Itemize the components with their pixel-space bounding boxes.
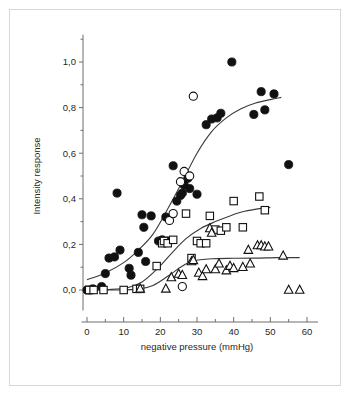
- x-tick-label: 50: [265, 326, 276, 337]
- series-open-squares: [86, 193, 269, 294]
- x-tick-label: 20: [155, 326, 166, 337]
- data-point-filled-circle: [257, 88, 265, 96]
- data-point-open-triangle: [215, 259, 224, 267]
- data-point-open-circle: [178, 282, 186, 290]
- x-tick-label: 30: [192, 326, 203, 337]
- data-point-open-square: [120, 286, 127, 293]
- data-point-open-circle: [186, 172, 194, 180]
- data-point-filled-circle: [250, 110, 258, 118]
- data-point-filled-circle: [127, 271, 135, 279]
- data-point-open-square: [223, 224, 230, 231]
- data-point-open-square: [261, 207, 268, 214]
- data-point-filled-circle: [142, 257, 150, 265]
- y-axis-title: Intensity response: [31, 137, 42, 214]
- y-tick-label: 1,0: [63, 56, 76, 67]
- x-tick-label: 40: [228, 326, 239, 337]
- data-point-open-triangle: [295, 285, 304, 293]
- scatter-plot: 0,00,20,40,60,81,00102030405060negative …: [0, 0, 351, 395]
- data-point-filled-circle: [147, 212, 155, 220]
- data-point-filled-circle: [261, 106, 269, 114]
- data-point-filled-circle: [285, 161, 293, 169]
- y-tick-label: 0,0: [63, 284, 76, 295]
- data-point-open-square: [182, 210, 189, 217]
- data-point-open-circle: [169, 210, 177, 218]
- data-point-open-triangle: [202, 265, 211, 273]
- data-point-open-square: [256, 193, 263, 200]
- data-point-filled-circle: [270, 90, 278, 98]
- data-point-open-square: [206, 212, 213, 219]
- y-tick-label: 0,8: [63, 102, 76, 113]
- data-point-open-triangle: [246, 259, 255, 267]
- data-point-filled-circle: [228, 58, 236, 66]
- data-point-filled-circle: [110, 253, 118, 261]
- y-tick-label: 0,6: [63, 148, 76, 159]
- data-point-filled-circle: [101, 269, 109, 277]
- x-tick-label: 60: [302, 326, 313, 337]
- data-point-open-circle: [176, 178, 184, 186]
- data-point-open-triangle: [162, 284, 171, 292]
- data-point-open-square: [153, 262, 160, 269]
- data-point-filled-circle: [217, 109, 225, 117]
- data-point-filled-circle: [116, 246, 124, 254]
- data-point-open-square: [90, 286, 97, 293]
- data-point-open-triangle: [279, 251, 288, 259]
- data-point-filled-circle: [113, 189, 121, 197]
- y-axis-title-group: Intensity response: [31, 137, 42, 214]
- data-point-open-circle: [189, 92, 197, 100]
- data-point-open-triangle: [244, 245, 253, 253]
- data-point-open-square: [100, 286, 107, 293]
- data-point-open-triangle: [284, 285, 293, 293]
- data-point-filled-circle: [134, 248, 142, 256]
- figure-container: 0,00,20,40,60,81,00102030405060negative …: [0, 0, 351, 395]
- data-point-filled-circle: [169, 162, 177, 170]
- y-tick-label: 0,2: [63, 239, 76, 250]
- data-point-filled-circle: [138, 211, 146, 219]
- x-tick-label: 10: [118, 326, 129, 337]
- data-point-open-square: [239, 224, 246, 231]
- data-point-open-square: [202, 240, 209, 247]
- data-point-filled-circle: [178, 189, 186, 197]
- y-tick-label: 0,4: [63, 193, 76, 204]
- data-point-open-square: [169, 236, 176, 243]
- x-axis-title: negative pressure (mmHg): [141, 341, 253, 352]
- x-tick-label: 0: [84, 326, 89, 337]
- data-point-filled-circle: [186, 184, 194, 192]
- data-point-filled-circle: [140, 223, 148, 231]
- data-point-filled-circle: [193, 190, 201, 198]
- data-point-open-square: [230, 197, 237, 204]
